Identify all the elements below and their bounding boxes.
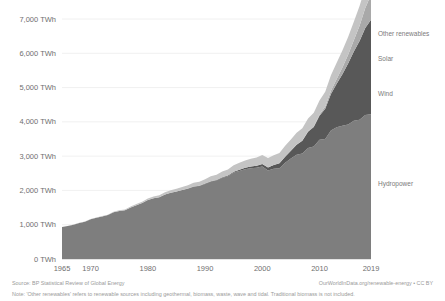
y-axis-tick-label: 4,000 TWh — [19, 117, 56, 126]
y-axis-tick-label: 2,000 TWh — [19, 186, 56, 195]
y-axis-tick-label: 3,000 TWh — [19, 152, 56, 161]
note-text: Note: 'Other renewables' refers to renew… — [12, 289, 433, 299]
x-axis-tick-label: 1980 — [139, 264, 156, 273]
chart-footer: Source: BP Statistical Review of Global … — [0, 278, 445, 299]
series-label-solar: Solar — [378, 55, 394, 62]
y-axis-tick-label: 0 TWh — [34, 255, 56, 264]
x-axis-tick-label: 2010 — [311, 264, 328, 273]
y-axis-tick-label: 6,000 TWh — [19, 49, 56, 58]
renewable-energy-stacked-area-chart: 0 TWh1,000 TWh2,000 TWh3,000 TWh4,000 TW… — [0, 0, 445, 301]
y-axis-tick-label: 1,000 TWh — [19, 220, 56, 229]
y-axis-tick-label: 5,000 TWh — [19, 83, 56, 92]
chart-canvas: 0 TWh1,000 TWh2,000 TWh3,000 TWh4,000 TW… — [0, 0, 445, 301]
series-label-other-renewables: Other renewables — [378, 30, 430, 37]
x-axis-tick-label: 2000 — [254, 264, 271, 273]
series-label-hydropower: Hydropower — [378, 180, 414, 188]
series-label-wind: Wind — [378, 90, 393, 97]
x-axis-tick-label: 1965 — [54, 264, 71, 273]
credit-text[interactable]: OurWorldInData.org/renewable-energy • CC… — [319, 278, 433, 288]
y-axis-tick-label: 7,000 TWh — [19, 15, 56, 24]
x-axis-tick-label: 1990 — [197, 264, 214, 273]
x-axis-tick-label: 2019 — [363, 264, 380, 273]
source-text: Source: BP Statistical Review of Global … — [12, 278, 125, 288]
plot-area: 0 TWh1,000 TWh2,000 TWh3,000 TWh4,000 TW… — [0, 0, 445, 301]
x-axis-tick-label: 1970 — [82, 264, 99, 273]
